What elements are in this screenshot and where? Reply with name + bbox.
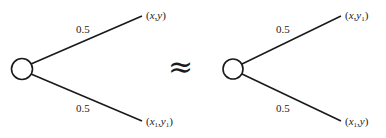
approximately-equal-symbol: ≈	[168, 52, 193, 82]
right-upper-outcome: (x,y1)	[345, 10, 368, 23]
right-chance-node	[223, 59, 243, 79]
outcome-y: y	[157, 9, 162, 21]
outcome-y: y	[360, 115, 365, 127]
outcome-x: x	[349, 9, 354, 21]
right-lower-outcome: (x1,y)	[345, 116, 368, 129]
right-lower-probability: 0.5	[276, 103, 290, 114]
left-lower-outcome: (x1,y1)	[146, 116, 173, 129]
left-upper-probability: 0.5	[76, 24, 90, 35]
outcome-y-subscript: 1	[361, 15, 365, 23]
right-upper-probability: 0.5	[276, 24, 290, 35]
lottery-equivalence-diagram: 0.5 0.5 (x,y) (x1,y1) ≈ 0.5 0.5 (x,y1) (…	[0, 0, 386, 138]
left-chance-node	[12, 59, 33, 80]
outcome-x-subscript: 1	[354, 121, 358, 129]
outcome-x-subscript: 1	[155, 121, 159, 129]
right-lower-branch	[242, 74, 341, 121]
left-upper-outcome: (x,y)	[146, 10, 166, 23]
outcome-y-subscript: 1	[166, 121, 170, 129]
left-lower-probability: 0.5	[76, 103, 90, 114]
outcome-x: x	[150, 9, 155, 21]
right-upper-branch	[242, 16, 341, 64]
